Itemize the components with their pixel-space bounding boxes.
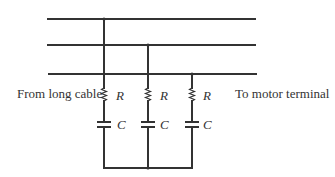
- capacitor-3-label: C: [203, 118, 212, 131]
- resistor-3: [190, 88, 195, 101]
- resistor-3-label: R: [203, 89, 211, 102]
- branch-3: [186, 74, 198, 168]
- resistor-1: [102, 88, 107, 101]
- to-motor-terminal-label: To motor terminal: [235, 87, 329, 100]
- rc-filter-diagram: From long cable To motor terminal R R R …: [0, 0, 335, 177]
- capacitor-1-label: C: [117, 118, 126, 131]
- resistor-1-label: R: [116, 89, 124, 102]
- capacitor-2-label: C: [160, 118, 169, 131]
- branch-2: [142, 45, 154, 168]
- resistor-2-label: R: [160, 89, 168, 102]
- resistor-2: [146, 88, 151, 101]
- from-long-cable-label: From long cable: [17, 87, 102, 100]
